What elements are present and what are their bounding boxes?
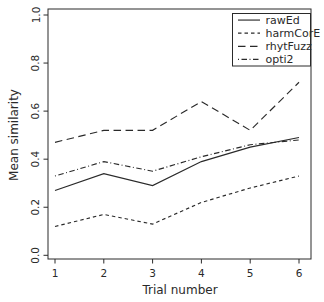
x-tick-label: 5 [247,267,254,279]
series-line-rawEd [55,138,299,191]
series-line-opti2 [55,140,299,176]
y-tick-label: 0.2 [30,199,42,216]
x-tick-label: 4 [198,267,205,279]
x-tick-label: 3 [149,267,156,279]
legend: rawEdharmCorErhytFuzzopti2 [233,14,321,67]
y-tick-label: 0.6 [30,102,42,119]
legend-label: opti2 [266,53,294,66]
series-line-harmCorE [55,176,299,226]
x-axis: 123456 [52,259,303,279]
y-tick-label: 0.8 [30,55,42,72]
figure: 0.00.20.40.60.81.0 123456 rawEdharmCorEr… [0,0,324,302]
x-tick-label: 1 [52,267,59,279]
y-axis: 0.00.20.40.60.81.0 [30,7,49,264]
legend-label: rawEd [266,14,300,27]
y-axis-title: Mean similarity [7,89,21,181]
x-tick-label: 6 [296,267,303,279]
series-lines [55,82,299,226]
legend-label: rhytFuzz [266,40,313,53]
x-axis-title: Trial number [141,283,217,297]
y-tick-label: 0.0 [30,247,42,264]
x-tick-label: 2 [100,267,107,279]
y-tick-label: 1.0 [30,7,42,24]
series-line-rhytFuzz [55,82,299,142]
y-tick-label: 0.4 [30,151,42,168]
legend-label: harmCorE [266,27,321,40]
line-chart: 0.00.20.40.60.81.0 123456 rawEdharmCorEr… [0,0,324,302]
